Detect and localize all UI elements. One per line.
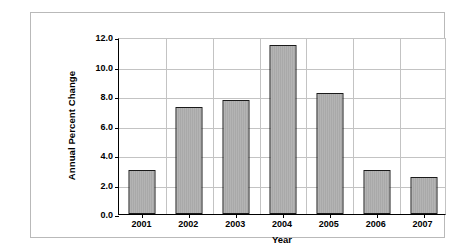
y-axis-tick-label: 6.0 <box>79 122 113 132</box>
x-axis-tick-label-2002: 2002 <box>165 219 211 229</box>
x-axis-tick-label-2001: 2001 <box>118 219 164 229</box>
bar-2003[interactable] <box>223 100 250 214</box>
x-axis-tick-mark <box>142 214 143 218</box>
bar-2005[interactable] <box>316 93 343 214</box>
bar-slot <box>260 39 307 214</box>
x-axis-tick-label-2005: 2005 <box>306 219 352 229</box>
x-axis-tick-labels: 2001200220032004200520062007 <box>118 219 446 233</box>
bar-2007[interactable] <box>410 177 437 214</box>
y-axis-tick-label: 4.0 <box>79 151 113 161</box>
bar-slot <box>213 39 260 214</box>
x-axis-tick-label-2007: 2007 <box>400 219 446 229</box>
chart-frame: Annual Percent Change 0.02.04.06.08.010.… <box>30 12 445 238</box>
x-axis-tick-mark <box>424 214 425 218</box>
y-axis-title: Annual Percent Change <box>64 33 80 218</box>
y-axis-tick-mark <box>115 216 119 217</box>
x-axis-tick-label-2006: 2006 <box>353 219 399 229</box>
y-axis-tick-mark <box>115 157 119 158</box>
y-axis-tick-mark <box>115 128 119 129</box>
x-axis-tick-mark <box>330 214 331 218</box>
x-axis-tick-mark <box>283 214 284 218</box>
bar-slot <box>306 39 353 214</box>
x-axis-tick-label-2004: 2004 <box>259 219 305 229</box>
bar-slot <box>119 39 166 214</box>
bar-2001[interactable] <box>129 170 156 214</box>
bar-slot <box>353 39 400 214</box>
x-axis-title: Year <box>118 234 446 245</box>
bar-slot <box>166 39 213 214</box>
x-axis-tick-mark <box>377 214 378 218</box>
bar-2006[interactable] <box>363 170 390 214</box>
y-axis-tick-mark <box>115 39 119 40</box>
y-axis-tick-mark <box>115 98 119 99</box>
y-axis-tick-label: 10.0 <box>79 63 113 73</box>
x-axis-tick-label-2003: 2003 <box>212 219 258 229</box>
plot-area <box>118 38 446 215</box>
y-axis-tick-label: 8.0 <box>79 92 113 102</box>
x-axis-tick-mark <box>189 214 190 218</box>
bar-2002[interactable] <box>176 107 203 214</box>
y-axis-tick-label: 0.0 <box>79 210 113 220</box>
x-axis-tick-mark <box>236 214 237 218</box>
y-axis-tick-mark <box>115 187 119 188</box>
bars-layer <box>119 39 445 214</box>
y-axis-tick-label: 12.0 <box>79 33 113 43</box>
bar-2004[interactable] <box>269 45 296 214</box>
y-axis-tick-mark <box>115 69 119 70</box>
bar-slot <box>400 39 447 214</box>
y-axis-tick-label: 2.0 <box>79 181 113 191</box>
y-axis-title-text: Annual Percent Change <box>67 71 78 180</box>
y-axis-tick-labels: 0.02.04.06.08.010.012.0 <box>79 32 113 222</box>
